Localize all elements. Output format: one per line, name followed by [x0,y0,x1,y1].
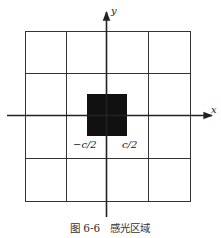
x-axis-label: x [211,104,217,115]
y-axis-label: y [110,5,117,16]
photosensitive-region-diagram: y x −c/2 c/2 图 6-6 感光区域 [0,0,221,238]
tick-neg-c-half: −c/2 [73,139,97,150]
figure-caption: 图 6-6 感光区域 [70,222,151,234]
tick-pos-c-half: c/2 [122,139,137,150]
